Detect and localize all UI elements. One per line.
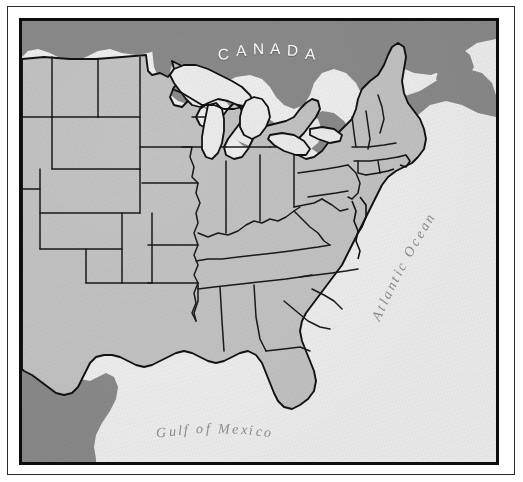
- map-page: CANADA Gulf of Mexico Atlantic Ocean: [0, 0, 523, 482]
- map-canvas: [22, 21, 496, 462]
- map-frame: CANADA Gulf of Mexico Atlantic Ocean: [19, 18, 499, 465]
